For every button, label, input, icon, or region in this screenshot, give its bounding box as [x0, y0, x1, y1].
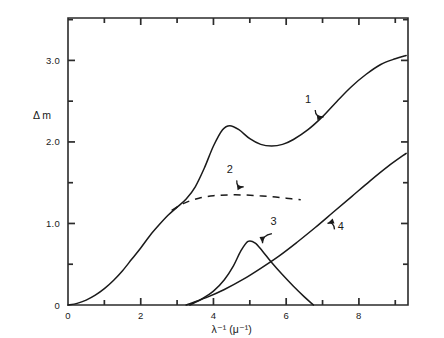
- x-axis-title: λ⁻¹ (μ⁻¹): [212, 323, 252, 335]
- x-tick-label: 2: [138, 310, 144, 321]
- line-chart-svg: 0246801.02.03.0λ⁻¹ (μ⁻¹)Δ m1234: [0, 0, 444, 338]
- curve-label-3: 3: [270, 215, 276, 227]
- data-curve-1: [68, 56, 406, 305]
- y-tick-label: 0: [54, 300, 60, 311]
- data-curve-2: [172, 195, 301, 211]
- x-tick-label: 0: [65, 310, 71, 321]
- annotation-arrowhead-2: [237, 185, 244, 190]
- curve-label-1: 1: [305, 93, 311, 105]
- plot-frame: [68, 18, 408, 305]
- annotation-arrowhead-4: [328, 219, 335, 224]
- curve-label-4: 4: [338, 220, 344, 232]
- y-tick-label: 3.0: [46, 55, 60, 66]
- x-tick-label: 6: [283, 310, 289, 321]
- x-tick-label: 8: [356, 310, 362, 321]
- data-curve-3: [190, 241, 314, 305]
- x-tick-label: 4: [211, 310, 217, 321]
- y-axis-title: Δ m: [33, 109, 51, 121]
- y-tick-label: 1.0: [46, 218, 60, 229]
- curve-label-2: 2: [227, 163, 233, 175]
- annotation-arrowhead-3: [260, 237, 265, 244]
- annotation-arrow-4: [328, 223, 335, 230]
- data-curve-4: [186, 153, 406, 305]
- chart-figure: 0246801.02.03.0λ⁻¹ (μ⁻¹)Δ m1234: [0, 0, 444, 338]
- y-tick-label: 2.0: [46, 136, 60, 147]
